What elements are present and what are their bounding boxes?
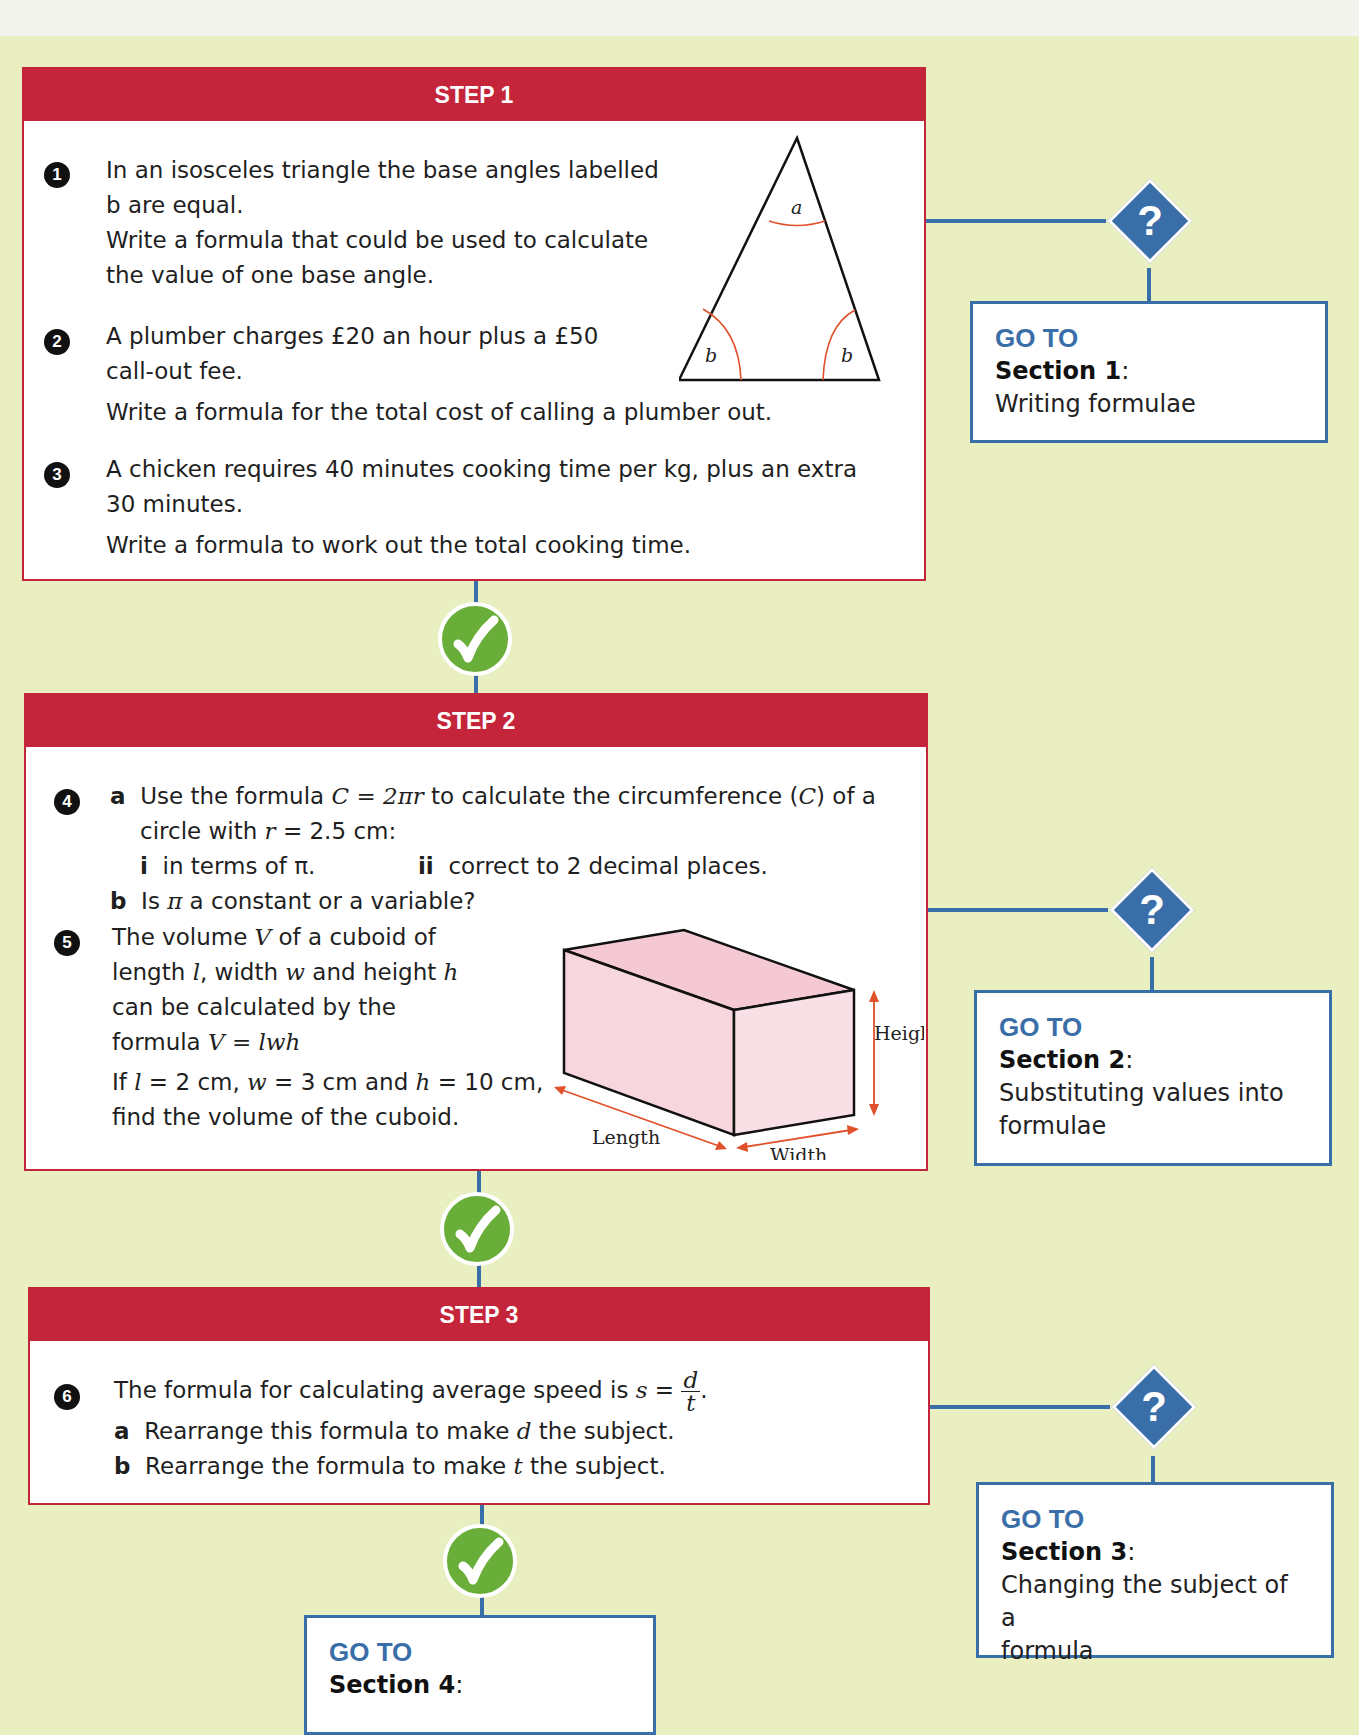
var: t [513,1453,522,1479]
question-5-line-2: length l, width w and height h [112,955,543,990]
check-icon [440,1192,514,1266]
text: Use the formula [140,783,331,809]
question-5-line-5: If l = 2 cm, w = 3 cm and h = 10 cm, [112,1065,543,1100]
goto-section-2-box[interactable]: GO TO Section 2: Substituting values int… [974,990,1332,1166]
question-5: The volume V of a cuboid of length l, wi… [112,920,543,1135]
goto-section-description-line-1: Substituting values into [999,1077,1307,1110]
var: w [247,1069,267,1095]
text: a constant or a variable? [182,888,475,914]
goto-label: GO TO [999,1011,1307,1044]
var: w [285,959,305,985]
question-5-line-4: formula V = lwh [112,1025,543,1060]
question-4a-line-1: a Use the formula C = 2πr to calculate t… [110,779,910,814]
text: If [112,1069,134,1095]
text: Rearrange the formula to make [145,1453,513,1479]
step-3-box: STEP 3 6 The formula for calculating ave… [28,1287,930,1505]
fraction-d-over-t: dt [681,1369,700,1414]
var: V [255,924,272,950]
text: the subject. [523,1453,666,1479]
triangle-label-b-right: b [841,344,853,366]
step-2-header: STEP 2 [26,695,926,747]
goto-section-description-line-2: formulae [999,1110,1307,1143]
var: C [798,783,816,809]
question-3-line-1: A chicken requires 40 minutes cooking ti… [106,452,857,487]
step-2-box: STEP 2 4 a Use the formula C = 2πr to ca… [24,693,928,1171]
goto-section-title: Section 1 [995,357,1121,385]
step-1-wrong-connector [926,219,1106,223]
pi-symbol: π [167,888,182,914]
cuboid-label-height: Height [874,1022,924,1044]
text: and height [305,959,444,985]
question-icon: ? [1111,1364,1197,1450]
text: ) of a [816,783,876,809]
text: formula [112,1029,208,1055]
question-5-line-6: find the volume of the cuboid. [112,1100,543,1135]
question-icon: ? [1109,867,1195,953]
goto-section-3-box[interactable]: GO TO Section 3: Changing the subject of… [976,1482,1334,1658]
text: The formula for calculating average spee… [114,1377,636,1403]
goto-label: GO TO [1001,1503,1309,1536]
var: h [444,959,459,985]
goto-section-description-line-1: Changing the subject of a [1001,1569,1309,1635]
check-icon [443,1524,517,1598]
part-letter-a: a [114,1418,130,1444]
question-4a-subparts: i in terms of π. ii correct to 2 decimal… [110,849,910,884]
question-number-4: 4 [54,789,80,815]
question-3-line-2: 30 minutes. [106,487,857,522]
question-6a: a Rearrange this formula to make d the s… [114,1414,707,1449]
var: l [134,1069,141,1095]
goto-1-connector [1147,268,1151,304]
question-6b: b Rearrange the formula to make t the su… [114,1449,707,1484]
var: d [517,1418,532,1444]
question-number-6: 6 [54,1384,80,1410]
question-1-line-2: b are equal. [106,188,659,223]
var: l [193,959,200,985]
subpart-ii-label: ii [418,853,434,879]
colon: : [455,1671,463,1699]
equals: = [648,1377,682,1403]
var-s: s [636,1377,648,1403]
question-5-line-3: can be calculated by the [112,990,543,1025]
goto-label: GO TO [329,1636,631,1669]
step-2-wrong-connector [928,908,1108,912]
goto-section-title: Section 2 [999,1046,1125,1074]
goto-3-connector [1151,1456,1155,1484]
part-letter-b: b [114,1453,130,1479]
goto-section-4-box[interactable]: GO TO Section 4: [304,1615,656,1735]
question-2-line-3: Write a formula for the total cost of ca… [106,395,772,430]
colon: : [1127,1538,1135,1566]
colon: : [1125,1046,1133,1074]
goto-section-title: Section 3 [1001,1538,1127,1566]
check-icon [438,602,512,676]
text: the subject. [531,1418,674,1444]
text: = 3 cm and [267,1069,416,1095]
goto-label: GO TO [995,322,1303,355]
question-6: The formula for calculating average spee… [114,1369,707,1484]
step-1-header: STEP 1 [24,69,924,121]
text: Rearrange this formula to make [144,1418,517,1444]
page-top-strip [0,0,1359,36]
question-icon: ? [1107,178,1193,264]
formula-circumference: C = 2πr [332,783,424,809]
goto-section-description: Writing formulae [995,388,1303,421]
question-6-stem: The formula for calculating average spee… [114,1369,707,1414]
step-1-box: STEP 1 1 In an isosceles triangle the ba… [22,67,926,581]
text: . [700,1377,707,1403]
subpart-i-text: in terms of π. [163,853,316,879]
question-1-line-4: the value of one base angle. [106,258,659,293]
text: of a cuboid of [271,924,436,950]
goto-section-title: Section 4 [329,1671,455,1699]
text: to calculate the circumference ( [424,783,799,809]
text: = 2 cm, [142,1069,248,1095]
text: circle with [140,818,265,844]
question-1-line-3: Write a formula that could be used to ca… [106,223,659,258]
question-4: a Use the formula C = 2πr to calculate t… [110,779,910,919]
question-3-line-3: Write a formula to work out the total co… [106,528,857,563]
colon: : [1121,357,1129,385]
step-3-wrong-connector [930,1405,1110,1409]
numerator: d [681,1369,700,1392]
part-letter-b: b [110,888,126,914]
goto-section-1-box[interactable]: GO TO Section 1: Writing formulae [970,301,1328,443]
question-4a-line-2: circle with r = 2.5 cm: [110,814,910,849]
denominator: t [681,1392,700,1414]
